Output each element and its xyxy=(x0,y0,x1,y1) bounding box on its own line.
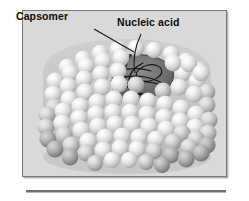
caption-rule xyxy=(26,190,226,193)
label-nucleic-acid: Nucleic acid xyxy=(117,17,179,28)
helical-virus-svg xyxy=(23,11,227,177)
figure-root: Capsomer Nucleic acid xyxy=(0,0,249,201)
figure-panel xyxy=(22,10,227,177)
label-capsomer: Capsomer xyxy=(16,11,68,22)
virus-illustration xyxy=(23,11,226,176)
